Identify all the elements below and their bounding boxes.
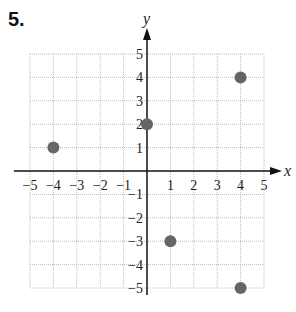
x-tick-label: 3 <box>214 178 221 193</box>
data-point <box>47 142 59 154</box>
x-axis-arrow-icon <box>270 167 282 175</box>
y-tick-label: 5 <box>136 47 143 62</box>
x-tick-label: −5 <box>23 178 38 193</box>
y-tick-label: −4 <box>128 258 143 273</box>
y-tick-label: −2 <box>128 211 143 226</box>
y-tick-label: 3 <box>136 94 143 109</box>
x-tick-label: 2 <box>190 178 197 193</box>
y-tick-label: −3 <box>128 234 143 249</box>
data-point <box>141 118 153 130</box>
data-point <box>235 71 247 83</box>
x-tick-label: 5 <box>261 178 268 193</box>
x-axis-label: x <box>283 162 291 179</box>
data-point <box>164 235 176 247</box>
y-tick-label: −1 <box>128 187 143 202</box>
y-axis-label: y <box>141 10 151 28</box>
y-tick-label: −5 <box>128 281 143 296</box>
coordinate-plane: xy−5−4−3−2−112345−5−4−3−2−112345 <box>0 0 296 312</box>
x-tick-label: −2 <box>93 178 108 193</box>
y-tick-label: 1 <box>136 141 143 156</box>
y-tick-label: 4 <box>136 70 143 85</box>
y-axis-arrow-icon <box>143 28 151 40</box>
x-tick-label: 4 <box>237 178 244 193</box>
x-tick-label: 1 <box>167 178 174 193</box>
x-tick-label: −3 <box>69 178 84 193</box>
x-tick-label: −4 <box>46 178 61 193</box>
data-point <box>235 282 247 294</box>
